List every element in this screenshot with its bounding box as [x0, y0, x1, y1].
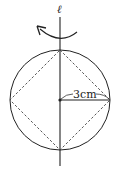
radius-brace-left [61, 94, 73, 99]
rotation-diagram: 3cm ℓ [0, 0, 117, 175]
radius-label: 3cm [73, 88, 97, 101]
axis-label: ℓ [57, 3, 62, 16]
rotation-arrow [40, 29, 77, 38]
radius-brace-right [96, 94, 109, 99]
